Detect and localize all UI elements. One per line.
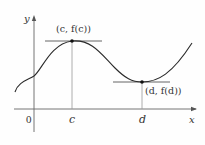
origin-label: 0 (26, 114, 32, 125)
local-max-label: (c, f(c)) (56, 24, 91, 34)
x-tick-c: c (69, 114, 75, 125)
x-tick-d: d (139, 114, 146, 125)
local-max-point (70, 39, 74, 43)
y-axis-arrow-icon (32, 15, 36, 21)
function-graph-figure: y x 0 (c, f(c)) (d, f(d)) c d (0, 0, 205, 145)
local-min-point (140, 80, 144, 84)
local-min-label: (d, f(d)) (145, 86, 182, 96)
x-axis-arrow-icon (191, 107, 197, 111)
y-axis-label: y (24, 14, 30, 24)
x-axis-label: x (189, 115, 195, 125)
